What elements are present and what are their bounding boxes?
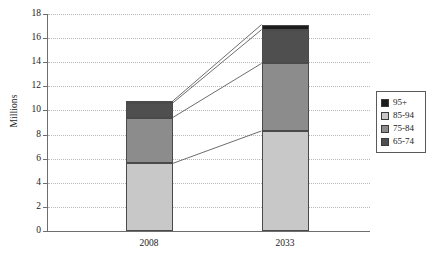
legend-label: 95+ (393, 98, 407, 107)
y-axis-tick (43, 38, 47, 39)
y-axis-tick (43, 14, 47, 15)
y-axis-tick-label: 4 (36, 178, 41, 188)
legend-item-85-94[interactable]: 85-94 (381, 109, 421, 122)
y-axis-tick (43, 62, 47, 63)
x-axis-line (47, 231, 370, 232)
y-axis-tick-label: 16 (32, 33, 42, 43)
y-axis-title: Millions (9, 71, 19, 151)
gridline (48, 38, 370, 39)
connector-line (173, 30, 262, 104)
bar-segment-75-84[interactable] (126, 118, 173, 164)
y-axis-tick (43, 135, 47, 136)
stacked-bar-chart: Millions 024681012141618 20082033 95+85-… (0, 0, 432, 256)
legend-swatch-icon (381, 125, 389, 133)
legend-swatch-icon (381, 112, 389, 120)
y-axis-tick-label: 14 (32, 57, 42, 67)
gridline (48, 207, 370, 208)
bar-segment-85-94[interactable] (262, 30, 309, 64)
y-axis-tick-label: 6 (36, 154, 41, 164)
legend-item-75-84[interactable]: 75-84 (381, 122, 421, 135)
bar-2033[interactable] (262, 14, 309, 231)
y-axis-tick-label: 10 (32, 106, 42, 116)
y-axis-tick (43, 231, 47, 232)
y-axis-tick (43, 86, 47, 87)
legend-label: 85-94 (393, 111, 414, 120)
y-axis-tick-label: 0 (36, 226, 41, 236)
y-axis-tick (43, 183, 47, 184)
bar-segment-75-84[interactable] (262, 63, 309, 131)
y-axis-tick-label: 18 (32, 9, 42, 19)
legend-item-65-74[interactable]: 65-74 (381, 135, 421, 148)
y-axis-tick (43, 207, 47, 208)
gridline (48, 86, 370, 87)
connector-lines (47, 14, 370, 232)
x-axis-label: 2033 (276, 238, 295, 248)
y-axis-tick-label: 2 (36, 202, 41, 212)
bar-segment-65-74[interactable] (126, 163, 173, 231)
gridline (48, 14, 370, 15)
gridline (48, 183, 370, 184)
gridline (48, 159, 370, 160)
bar-segment-65-74[interactable] (262, 131, 309, 231)
bar-segment-95+[interactable] (126, 101, 173, 103)
y-axis-tick (43, 110, 47, 111)
y-axis-line (47, 14, 48, 232)
x-axis-label: 2008 (140, 238, 159, 248)
y-axis-tick-label: 12 (32, 82, 42, 92)
gridline (48, 135, 370, 136)
plot-area: 024681012141618 20082033 (47, 14, 370, 232)
gridline (48, 62, 370, 63)
legend-label: 75-84 (393, 124, 414, 133)
legend: 95+85-9475-8465-74 (376, 91, 426, 153)
bar-2008[interactable] (126, 14, 173, 231)
y-axis-tick (43, 159, 47, 160)
legend-item-95+[interactable]: 95+ (381, 96, 421, 109)
gridline (48, 110, 370, 111)
legend-swatch-icon (381, 99, 389, 107)
bar-segment-95+[interactable] (262, 25, 309, 30)
legend-swatch-icon (381, 138, 389, 146)
bar-segment-85-94[interactable] (126, 103, 173, 117)
y-axis-tick-label: 8 (36, 130, 41, 140)
legend-label: 65-74 (393, 137, 414, 146)
